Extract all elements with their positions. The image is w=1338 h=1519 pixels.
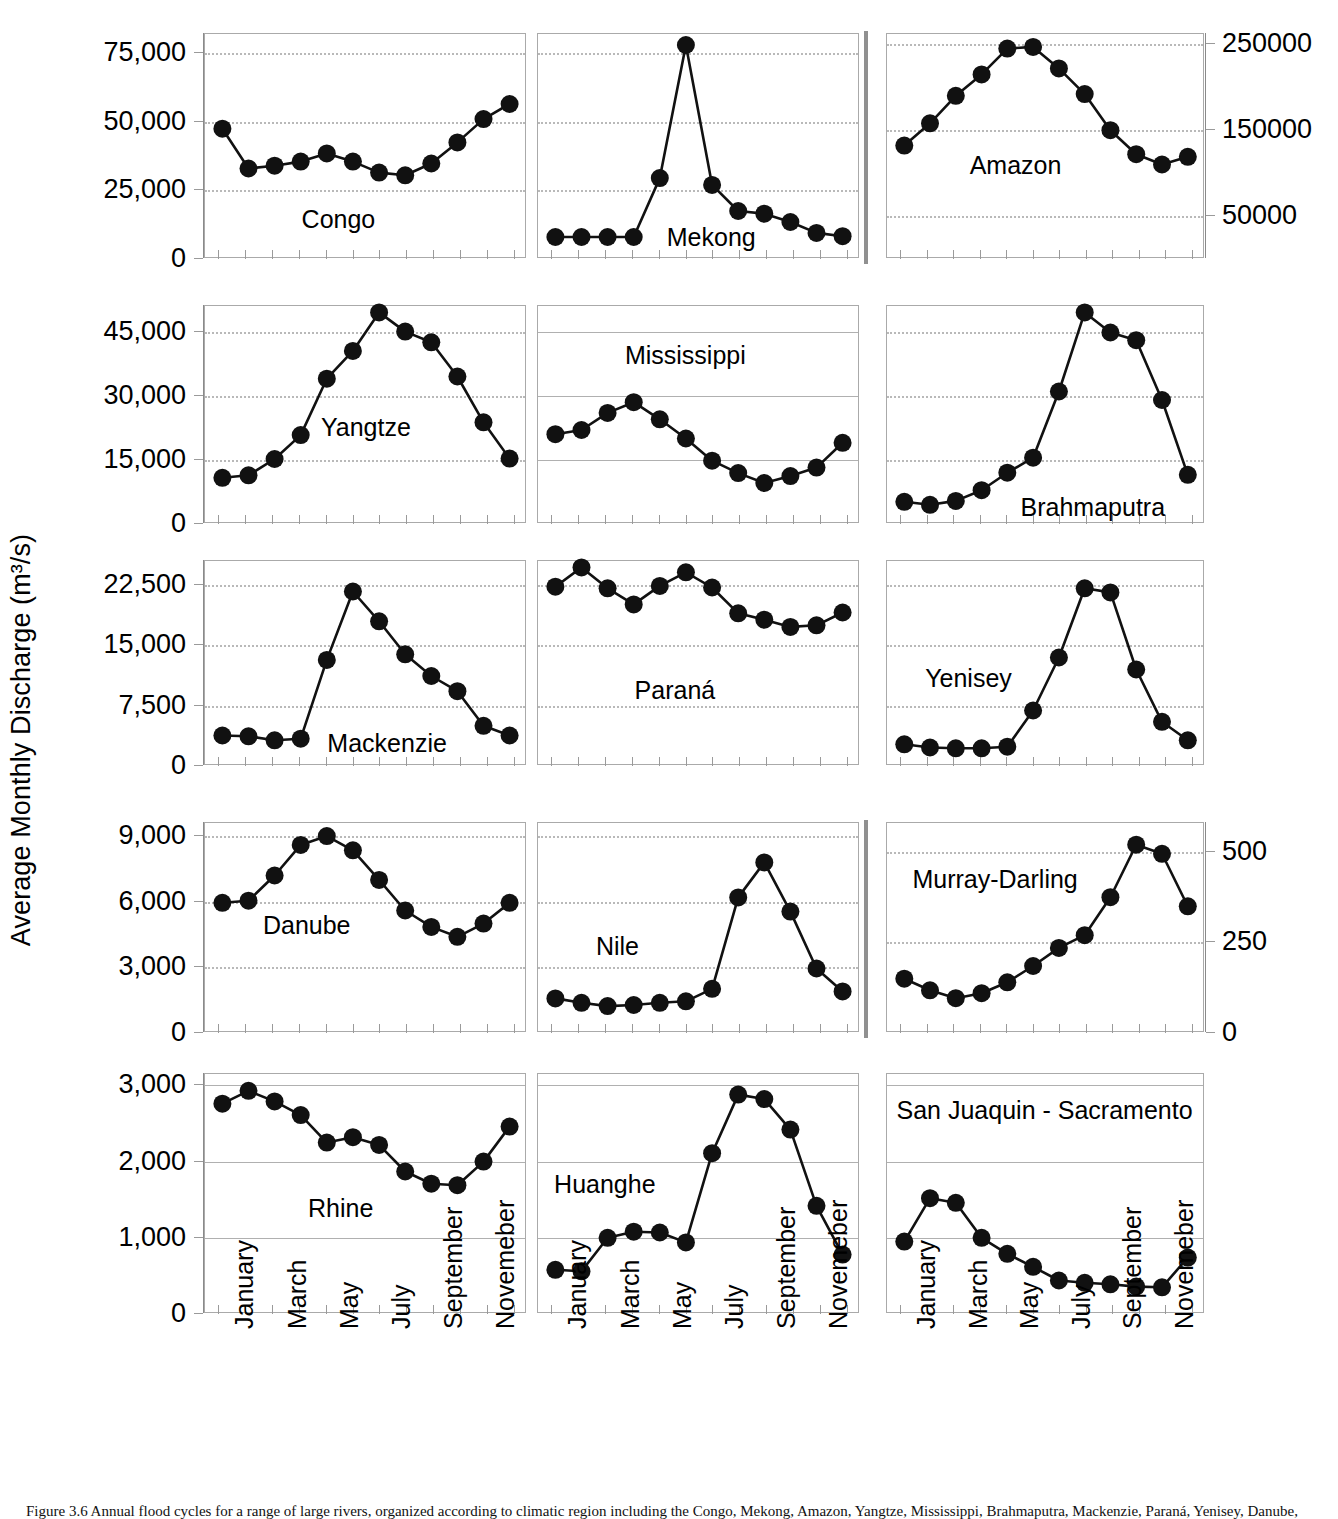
- plot-panel-paran: Paraná: [537, 560, 859, 765]
- data-point-marker: [292, 426, 310, 444]
- y-tick-label: 0: [0, 1298, 186, 1329]
- y-tick-label: 0: [0, 750, 186, 781]
- data-point-marker: [729, 464, 747, 482]
- figure-root: Average Monthly Discharge (m³/s) Congo02…: [0, 0, 1338, 1519]
- data-point-marker: [266, 731, 284, 749]
- data-point-marker: [781, 618, 799, 636]
- y-tick-mark: [194, 121, 203, 122]
- data-point-marker: [422, 918, 440, 936]
- y-tick-mark: [194, 765, 203, 766]
- series-plot: [887, 34, 1205, 259]
- data-point-marker: [1153, 1278, 1171, 1296]
- data-point-marker: [895, 137, 913, 155]
- data-point-marker: [422, 667, 440, 685]
- data-point-marker: [1050, 649, 1068, 667]
- data-point-marker: [1179, 466, 1197, 484]
- y-axis-line: [203, 305, 204, 523]
- data-point-marker: [292, 153, 310, 171]
- x-tick-label: September: [439, 1207, 468, 1329]
- plot-panel-congo: Congo: [204, 33, 526, 258]
- y-tick-label: 45,000: [0, 315, 186, 346]
- y-tick-label: 3,000: [0, 951, 186, 982]
- data-point-marker: [422, 155, 440, 173]
- series-plot: [538, 823, 860, 1033]
- data-point-marker: [318, 1134, 336, 1152]
- series-line: [222, 1091, 509, 1185]
- data-point-marker: [1153, 156, 1171, 174]
- y-axis-line: [203, 33, 204, 258]
- data-point-marker: [1024, 38, 1042, 56]
- series-line: [222, 312, 509, 477]
- y-tick-label: 0: [0, 243, 186, 274]
- data-point-marker: [1101, 121, 1119, 139]
- y-tick-label: 15,000: [0, 629, 186, 660]
- data-point-marker: [703, 980, 721, 998]
- data-point-marker: [240, 466, 258, 484]
- data-point-marker: [677, 563, 695, 581]
- y-axis-line: [203, 1073, 204, 1313]
- y-tick-mark-right: [1206, 941, 1215, 942]
- data-point-marker: [973, 739, 991, 757]
- y-tick-label: 25,000: [0, 174, 186, 205]
- data-point-marker: [213, 727, 231, 745]
- y-tick-label: 15,000: [0, 443, 186, 474]
- panel-title: Congo: [302, 205, 376, 234]
- data-point-marker: [703, 579, 721, 597]
- data-point-marker: [475, 413, 493, 431]
- series-plot: [538, 306, 860, 524]
- y-tick-label: 0: [0, 1017, 186, 1048]
- panel-title: Yenisey: [925, 664, 1012, 693]
- y-axis-line-right: [1205, 33, 1206, 258]
- data-point-marker: [1076, 303, 1094, 321]
- y-tick-mark: [194, 52, 203, 53]
- data-point-marker: [677, 1233, 695, 1251]
- x-tick-label: Novemeber: [1170, 1200, 1199, 1329]
- x-tick-label: July: [720, 1285, 749, 1329]
- x-tick-label: March: [964, 1260, 993, 1329]
- data-point-marker: [213, 120, 231, 138]
- y-tick-mark-right: [1206, 215, 1215, 216]
- data-point-marker: [1179, 148, 1197, 166]
- data-point-marker: [808, 224, 826, 242]
- y-tick-label: 0: [0, 508, 186, 539]
- y-axis-line-right: [1205, 822, 1206, 1032]
- series-line: [555, 45, 842, 237]
- y-tick-mark: [194, 705, 203, 706]
- data-point-marker: [703, 452, 721, 470]
- x-tick-label: July: [387, 1285, 416, 1329]
- y-axis-line: [203, 560, 204, 765]
- data-point-marker: [834, 982, 852, 1000]
- x-tick-label: Novemeber: [824, 1200, 853, 1329]
- y-tick-mark: [194, 1032, 203, 1033]
- panel-title: Murray-Darling: [912, 865, 1077, 894]
- data-point-marker: [947, 492, 965, 510]
- data-point-marker: [921, 496, 939, 514]
- data-point-marker: [625, 393, 643, 411]
- data-point-marker: [448, 133, 466, 151]
- data-point-marker: [895, 1233, 913, 1251]
- data-point-marker: [703, 176, 721, 194]
- y-tick-label: 9,000: [0, 820, 186, 851]
- y-tick-label-right: 250: [1222, 926, 1267, 957]
- plot-panel-mackenzie: Mackenzie: [204, 560, 526, 765]
- data-point-marker: [781, 467, 799, 485]
- data-point-marker: [921, 739, 939, 757]
- plot-panel-murray-darling: Murray-Darling: [886, 822, 1204, 1032]
- plot-panel-brahmaputra: Brahmaputra: [886, 305, 1204, 523]
- data-point-marker: [546, 425, 564, 443]
- y-tick-mark: [194, 1313, 203, 1314]
- data-point-marker: [1101, 583, 1119, 601]
- y-tick-mark: [194, 1161, 203, 1162]
- y-tick-mark-right: [1206, 1032, 1215, 1033]
- data-point-marker: [370, 303, 388, 321]
- data-point-marker: [344, 153, 362, 171]
- data-point-marker: [318, 144, 336, 162]
- x-tick-label: March: [283, 1260, 312, 1329]
- data-point-marker: [573, 994, 591, 1012]
- y-tick-mark: [194, 459, 203, 460]
- data-point-marker: [625, 1223, 643, 1241]
- data-point-marker: [599, 1229, 617, 1247]
- data-point-marker: [292, 836, 310, 854]
- y-tick-label-right: 250000: [1222, 28, 1312, 59]
- data-point-marker: [501, 727, 519, 745]
